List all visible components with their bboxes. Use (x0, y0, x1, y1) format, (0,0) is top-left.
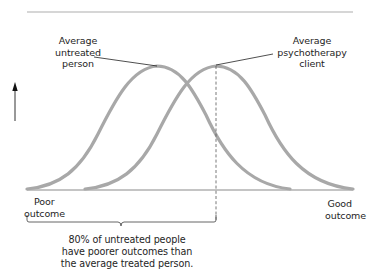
label-line: untreated (48, 47, 108, 59)
label-poor-outcome: Poor outcome (24, 196, 72, 219)
brace-caption: 80% of untreated people have poorer outc… (52, 234, 202, 269)
client-leader-line (216, 54, 273, 65)
label-line: outcome (325, 210, 366, 221)
caption-line: have poorer outcomes than (52, 246, 202, 258)
label-average-psychotherapy-client: Average psychotherapy client (272, 35, 352, 70)
label-line: psychotherapy (272, 47, 352, 59)
caption-line: the average treated person. (52, 258, 202, 270)
label-line: person (48, 58, 108, 70)
caption-line: 80% of untreated people (52, 234, 202, 246)
label-average-untreated-person: Average untreated person (48, 35, 108, 70)
label-line: Good (306, 198, 366, 210)
label-line: Average (272, 35, 352, 47)
label-line: Poor (24, 196, 72, 208)
frequency-arrow-icon (12, 82, 17, 121)
label-good-outcome: Good outcome (306, 198, 366, 221)
label-line: outcome (24, 208, 65, 219)
label-line: Average (48, 35, 108, 47)
label-line: client (272, 58, 352, 70)
